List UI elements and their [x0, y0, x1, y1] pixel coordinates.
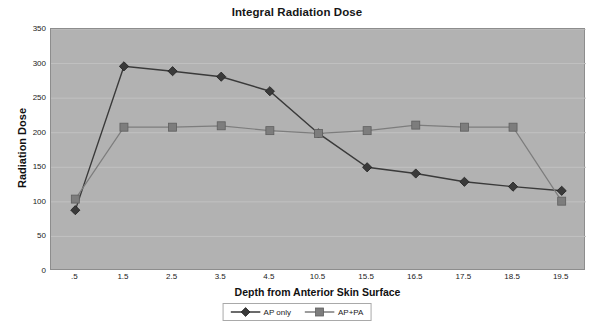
- legend-marker-square-icon: [305, 307, 335, 317]
- x-tick-label: 16.5: [407, 272, 423, 281]
- x-tick-label: 1.5: [117, 272, 128, 281]
- data-point[interactable]: [460, 123, 468, 131]
- data-point[interactable]: [217, 122, 225, 130]
- y-tick-label: 0: [6, 266, 50, 275]
- data-point[interactable]: [120, 123, 128, 131]
- y-tick-label: 200: [6, 127, 50, 136]
- data-point[interactable]: [411, 169, 420, 178]
- data-point[interactable]: [460, 177, 469, 186]
- series-layer: [71, 62, 567, 215]
- legend-entry[interactable]: AP+PA: [305, 307, 363, 317]
- series-ap-only: [71, 62, 567, 215]
- data-point[interactable]: [71, 206, 80, 215]
- chart-title: Integral Radiation Dose: [0, 6, 594, 18]
- data-point[interactable]: [508, 182, 517, 191]
- data-point[interactable]: [266, 127, 274, 135]
- y-tick-label: 100: [6, 196, 50, 205]
- x-axis-title: Depth from Anterior Skin Surface: [50, 286, 585, 298]
- data-point[interactable]: [509, 123, 517, 131]
- legend-marker-diamond-icon: [231, 307, 261, 317]
- data-point[interactable]: [315, 129, 323, 137]
- legend-label: AP+PA: [338, 308, 363, 317]
- x-tick-label: 4.5: [263, 272, 274, 281]
- data-point[interactable]: [558, 197, 566, 205]
- x-axis-tick-labels: .51.52.53.54.510.515.516.517.518.519.5: [50, 272, 585, 286]
- y-tick-label: 350: [6, 24, 50, 33]
- x-tick-label: 10.5: [310, 272, 326, 281]
- series-ap-pa: [71, 121, 565, 205]
- y-axis-tick-labels: 050100150200250300350: [0, 28, 50, 270]
- plot-svg: [51, 29, 586, 271]
- y-tick-label: 250: [6, 93, 50, 102]
- data-point[interactable]: [168, 67, 177, 76]
- x-tick-label: 18.5: [504, 272, 520, 281]
- data-point[interactable]: [169, 123, 177, 131]
- legend-label: AP only: [264, 308, 291, 317]
- x-tick-label: 19.5: [553, 272, 569, 281]
- chart-legend: AP onlyAP+PA: [223, 303, 372, 321]
- data-point[interactable]: [217, 72, 226, 81]
- chart-container: Integral Radiation Dose Radiation Dose 0…: [0, 0, 594, 334]
- y-tick-label: 150: [6, 162, 50, 171]
- x-tick-label: 3.5: [215, 272, 226, 281]
- data-point[interactable]: [557, 186, 566, 195]
- plot-area: [50, 28, 585, 270]
- x-tick-label: 2.5: [166, 272, 177, 281]
- data-point[interactable]: [71, 195, 79, 203]
- y-tick-label: 300: [6, 58, 50, 67]
- data-point[interactable]: [412, 121, 420, 129]
- x-tick-label: .5: [71, 272, 78, 281]
- legend-entry[interactable]: AP only: [231, 307, 291, 317]
- data-point[interactable]: [363, 163, 372, 172]
- x-tick-label: 15.5: [358, 272, 374, 281]
- x-tick-label: 17.5: [456, 272, 472, 281]
- y-tick-label: 50: [6, 231, 50, 240]
- data-point[interactable]: [363, 127, 371, 135]
